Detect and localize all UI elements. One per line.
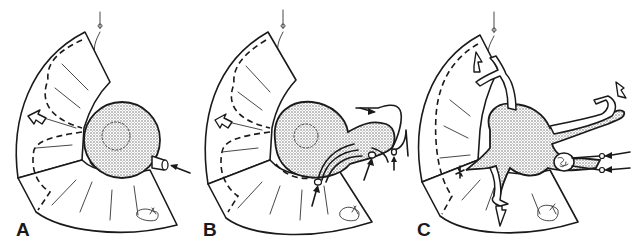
- tissue-knot: [554, 153, 574, 171]
- panel-label-b: B: [203, 219, 217, 240]
- arrow-head-icon: [604, 152, 612, 159]
- panel-c: C: [417, 12, 630, 240]
- panel-a: A: [16, 12, 190, 240]
- panel-label-a: A: [16, 219, 30, 240]
- figure-canvas: A: [0, 0, 631, 245]
- arrow-head-icon: [170, 164, 178, 170]
- arrow-head-icon: [368, 108, 376, 115]
- suture-hook: [488, 12, 496, 58]
- arrow-head-icon: [391, 156, 397, 162]
- panel-b: B: [203, 10, 408, 240]
- arrow-head-icon: [604, 166, 612, 173]
- panel-label-c: C: [417, 219, 431, 240]
- open-arrow-icon: [616, 82, 626, 98]
- lower-flap: [18, 160, 177, 232]
- expander-balloon: [84, 102, 160, 178]
- suture-hook: [94, 12, 102, 56]
- port-opening: [162, 160, 168, 170]
